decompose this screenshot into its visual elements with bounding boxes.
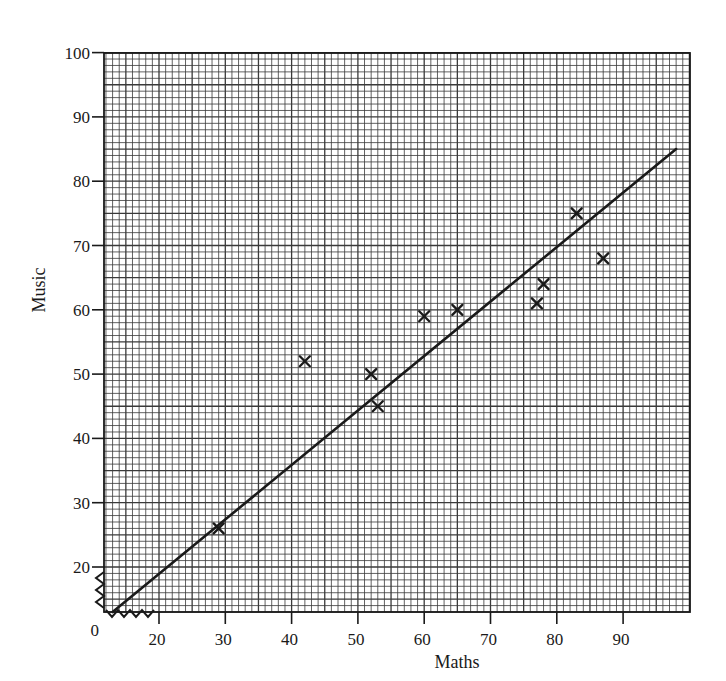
y-tick-label: 60 bbox=[73, 301, 90, 320]
y-tick-label: 30 bbox=[73, 494, 90, 513]
origin-label: 0 bbox=[91, 621, 100, 640]
y-axis-label: Music bbox=[29, 267, 49, 312]
x-tick-label: 90 bbox=[613, 630, 630, 649]
y-tick-label: 80 bbox=[73, 172, 90, 191]
y-tick-label: 20 bbox=[73, 558, 90, 577]
x-tick-label: 20 bbox=[149, 630, 166, 649]
x-tick-label: 80 bbox=[546, 630, 563, 649]
y-tick-label: 50 bbox=[73, 365, 90, 384]
x-axis-label: Maths bbox=[435, 652, 480, 672]
x-tick-label: 60 bbox=[414, 630, 431, 649]
y-tick-label: 90 bbox=[73, 108, 90, 127]
y-tick-label: 40 bbox=[73, 429, 90, 448]
chart-background bbox=[0, 0, 726, 681]
scatter-chart: 2030405060708090 2030405060708090100 0 M… bbox=[0, 0, 726, 681]
x-tick-label: 70 bbox=[480, 630, 497, 649]
x-tick-label: 50 bbox=[347, 630, 364, 649]
x-tick-label: 40 bbox=[281, 630, 298, 649]
y-tick-label: 100 bbox=[65, 44, 91, 63]
x-tick-label: 30 bbox=[215, 630, 232, 649]
y-tick-label: 70 bbox=[73, 237, 90, 256]
